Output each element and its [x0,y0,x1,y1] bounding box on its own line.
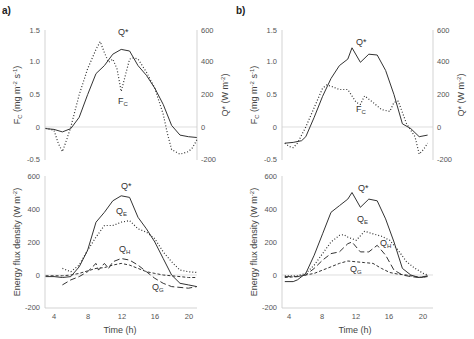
qe-curve-label: QE [357,214,368,225]
tick-label: 600 [264,172,277,181]
panel-a-bottom-chart: 600 400 200 0 -200 4 8 12 16 20 Time (h)… [12,172,197,336]
tick-label: 200 [27,238,40,247]
tick-label: 0.5 [267,90,277,99]
curves [285,48,428,154]
qstar-curve-label: Q* [356,37,367,47]
y-ticks-left: 1.5 1.0 0.5 0 -0.5 [264,26,277,164]
tick-label: -200 [201,155,216,164]
tick-label: -0.5 [27,155,40,164]
tick-label: 0 [36,123,40,132]
x-ticks: 4 8 12 16 20 [52,312,193,321]
y-axis-label-qstar: Q* (W m-2) [456,74,466,117]
fc-curve-label: FC [356,104,367,115]
tick-label: 400 [27,205,40,214]
y-ticks-right: 600 400 200 0 -200 [201,26,216,164]
tick-label: 8 [86,312,90,321]
tick-label: 12 [352,312,360,321]
tick-label: 1.5 [30,26,40,35]
qstar-curve-label: Q* [358,183,369,193]
tick-label: 20 [419,312,427,321]
tick-label: 400 [201,57,214,66]
tick-label: -200 [25,303,40,312]
series-qstar-line [285,48,428,143]
tick-label: 600 [437,26,450,35]
figure: a) b) 1.5 1.0 0.5 0 -0.5 600 400 200 0 -… [0,0,474,339]
x-axis-label: Time (h) [338,325,371,335]
tick-label: 12 [118,312,126,321]
y-ticks-left: 1.5 1.0 0.5 0 -0.5 [27,26,40,164]
tick-label: 400 [437,57,450,66]
tick-label: 0 [437,123,441,132]
tick-label: 1.0 [30,57,40,66]
qg-curve-label: QG [152,282,164,293]
tick-label: 4 [287,312,291,321]
panel-b-top-chart: 1.5 1.0 0.5 0 -0.5 600 400 200 0 -200 FC… [249,26,466,164]
tick-label: 1.5 [267,26,277,35]
qe-curve-label: QE [116,206,127,217]
x-axis-label: Time (h) [103,325,136,335]
tick-label: -0.5 [264,155,277,164]
panel-label-b: b) [236,5,245,16]
y-axis-label-energy: Energy flux density (W m-2) [249,188,259,296]
y-ticks: 600 400 200 0 -200 [25,172,40,313]
tick-label: 16 [385,312,393,321]
series-qh-line [62,259,196,289]
tick-label: 0 [273,123,277,132]
tick-label: 20 [185,312,193,321]
tick-label: -200 [262,303,277,312]
tick-label: 0 [36,271,40,280]
series-qstar-line [46,49,197,137]
tick-label: 16 [151,312,159,321]
tick-label: 600 [27,172,40,181]
tick-label: -200 [437,155,452,164]
tick-label: 0 [273,271,277,280]
tick-label: 1.0 [267,57,277,66]
series-fc-line [285,85,428,154]
tick-label: 0 [201,123,205,132]
y-axis-label-energy: Energy flux density (W m-2) [12,188,22,296]
qstar-curve-label: Q* [121,181,132,191]
tick-label: 200 [201,90,214,99]
panel-label-a: a) [2,5,11,16]
qh-curve-label: QH [119,244,130,255]
tick-label: 600 [201,26,214,35]
fc-curve-label: FC [118,96,129,107]
tick-label: 0.5 [30,90,40,99]
tick-label: 200 [437,90,450,99]
y-ticks: 600 400 200 0 -200 [262,172,277,313]
y-ticks-right: 600 400 200 0 -200 [437,26,452,164]
tick-label: 200 [264,238,277,247]
qstar-curve-label: Q* [118,27,129,37]
y-axis-label-fc: FC (mg m-2 s-1) [12,66,23,125]
y-axis-label-fc: FC (mg m-2 s-1) [249,66,260,125]
tick-label: 8 [320,312,324,321]
tick-label: 400 [264,205,277,214]
panel-a-top-chart: 1.5 1.0 0.5 0 -0.5 600 400 200 0 -200 FC… [12,26,230,164]
x-ticks: 4 8 12 16 20 [287,312,427,321]
y-axis-label-qstar: Q* (W m-2) [220,74,230,117]
panel-b-bottom-chart: 600 400 200 0 -200 4 8 12 16 20 Time (h)… [249,172,433,336]
tick-label: 4 [52,312,56,321]
qg-curve-label: QG [350,264,362,275]
